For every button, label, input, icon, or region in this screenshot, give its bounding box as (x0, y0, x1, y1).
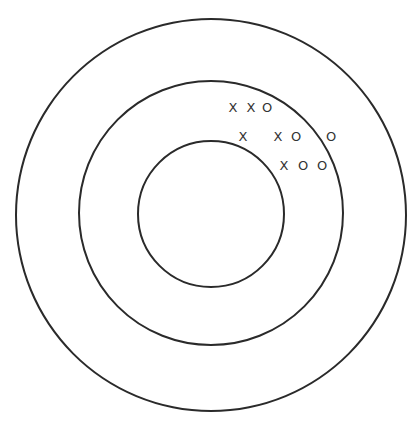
mark-o: O (317, 159, 327, 172)
mark-x: X (229, 101, 238, 114)
mark-o: O (326, 130, 336, 143)
mark-x: X (239, 130, 248, 143)
mark-x: X (274, 130, 283, 143)
mark-x: X (247, 101, 256, 114)
mark-o: O (298, 159, 308, 172)
mark-x: X (280, 159, 289, 172)
target-diagram: X X O X X O O X O O (0, 0, 413, 428)
mark-o: O (291, 130, 301, 143)
inner-ring (137, 140, 285, 288)
mark-o: O (262, 101, 272, 114)
